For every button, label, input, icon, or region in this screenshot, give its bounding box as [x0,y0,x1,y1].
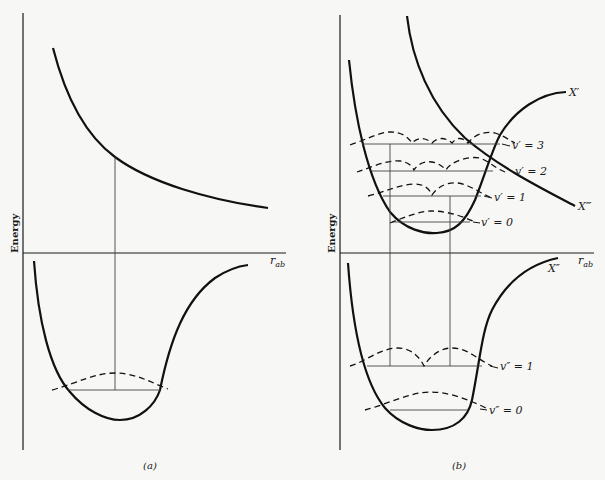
panel-b-leader-v2-0 [480,409,487,410]
potential-energy-diagram: Energy rab (a) [0,0,605,480]
level-label-v1-1: v′ = 1 [494,191,526,204]
curve-label-x-double-prime: X″ [547,262,561,275]
panel-b-leader-v1-3 [502,144,510,146]
panel-b-repulsive-curve-x3 [407,16,575,206]
curve-label-x-triple-prime: X‴ [577,200,592,213]
panel-a-caption: (a) [143,460,157,471]
panel-b-wavefunction-v2-1 [350,348,492,366]
panel-b: Energy rab X′ X‴ X″ v′ = 3 v′ = 2 v′ = 1… [326,15,594,471]
panel-b-ground-well-x2 [348,258,558,430]
panel-b-leader-v1-0 [473,222,480,223]
panel-a-energy-label: Energy [9,212,20,253]
panel-a-r-label: rab [270,254,285,269]
panel-a-wavefunction [52,373,168,390]
level-label-v2-0: v″ = 0 [489,404,523,417]
panel-a: Energy rab (a) [9,13,286,471]
panel-a-repulsive-curve [53,48,268,208]
level-label-v1-2: v′ = 2 [515,165,547,178]
curve-label-x-prime: X′ [568,86,580,99]
panel-b-wavefunction-v1-3 [350,132,515,145]
panel-b-wavefunction-v1-1 [368,183,490,197]
panel-b-wavefunction-v1-2 [357,158,505,173]
level-label-v2-1: v″ = 1 [500,360,534,373]
level-label-v1-3: v′ = 3 [512,139,544,152]
level-label-v1-0: v′ = 0 [481,216,513,229]
panel-b-r-label: rab [578,254,593,269]
panel-b-leader-v2-1 [490,366,498,368]
panel-b-energy-label: Energy [326,212,337,253]
panel-a-ground-well [34,261,248,420]
panel-b-caption: (b) [452,460,466,471]
